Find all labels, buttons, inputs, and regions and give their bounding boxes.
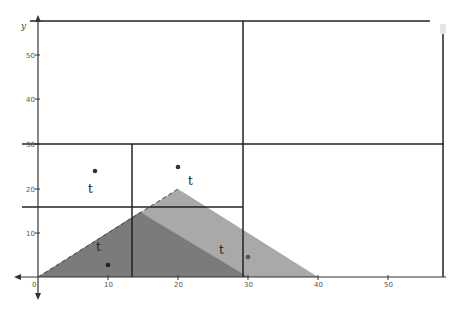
y-tick-label: 30 bbox=[26, 141, 35, 149]
x-tick-label: 40 bbox=[314, 281, 323, 289]
x-tick-label: 10 bbox=[104, 281, 113, 289]
point bbox=[93, 169, 98, 174]
y-axis-label: y bbox=[20, 21, 27, 31]
t-label: t bbox=[188, 174, 193, 188]
y-tick-label: 20 bbox=[26, 186, 35, 194]
diagram-canvas: y 50 40 30 20 10 0 10 20 30 40 50 t t t … bbox=[0, 0, 464, 312]
x-tick-label: 50 bbox=[384, 281, 393, 289]
x-tick-label: 20 bbox=[174, 281, 183, 289]
x-tick-label: 30 bbox=[244, 281, 253, 289]
x-axis-arrow-icon bbox=[14, 274, 21, 280]
t-label: t bbox=[96, 240, 101, 254]
y-axis-arrow-down-icon bbox=[35, 293, 41, 300]
y-tick-label: 50 bbox=[26, 52, 35, 60]
top-right-marker bbox=[440, 24, 446, 34]
y-axis-arrow-up-icon bbox=[35, 15, 41, 22]
y-tick-label: 10 bbox=[26, 230, 35, 238]
point bbox=[246, 255, 251, 260]
x-tick-label: 0 bbox=[32, 281, 36, 289]
t-label: t bbox=[219, 243, 224, 257]
y-tick-label: 40 bbox=[26, 96, 35, 104]
point bbox=[176, 165, 181, 170]
point bbox=[106, 263, 111, 268]
t-label: t bbox=[88, 182, 93, 196]
